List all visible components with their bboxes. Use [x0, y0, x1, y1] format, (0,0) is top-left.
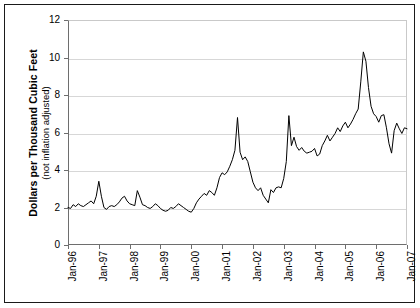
x-tick-label: Jan-03: [284, 251, 294, 282]
y-tick-label: 0: [34, 240, 60, 250]
y-tick-label: 8: [34, 90, 60, 100]
y-tick-label: 12: [34, 15, 60, 25]
x-tick-label: Jan-05: [345, 251, 355, 282]
x-tick-mark: [376, 245, 377, 249]
x-tick-label: Jan-96: [68, 251, 78, 282]
x-tick-mark: [160, 245, 161, 249]
x-tick-mark: [345, 245, 346, 249]
x-tick-mark: [253, 245, 254, 249]
x-tick-label: Jan-98: [130, 251, 140, 282]
x-tick-mark: [68, 245, 69, 249]
x-tick-label: Jan-04: [315, 251, 325, 282]
y-tick-label: 10: [34, 53, 60, 63]
x-tick-label: Jan-02: [253, 251, 263, 282]
y-tick-label: 6: [34, 128, 60, 138]
x-tick-mark: [315, 245, 316, 249]
x-tick-label: Jan-99: [160, 251, 170, 282]
x-tick-label: Jan-06: [376, 251, 386, 282]
chart-figure: Dollars per Thousand Cubic Feet (not inf…: [0, 0, 420, 308]
y-tick-label: 4: [34, 165, 60, 175]
x-tick-label: Jan-07: [407, 251, 417, 282]
price-series-line: [68, 52, 407, 212]
x-tick-label: Jan-01: [222, 251, 232, 282]
x-tick-mark: [284, 245, 285, 249]
plot-wrapper: 024681012 Jan-96Jan-97Jan-98Jan-99Jan-00…: [68, 20, 407, 245]
x-tick-mark: [130, 245, 131, 249]
x-tick-label: Jan-97: [99, 251, 109, 282]
x-tick-label: Jan-00: [191, 251, 201, 282]
x-tick-mark: [222, 245, 223, 249]
series-layer: [68, 20, 407, 245]
x-tick-mark: [191, 245, 192, 249]
x-tick-mark: [407, 245, 408, 249]
y-tick-label: 2: [34, 203, 60, 213]
x-tick-mark: [99, 245, 100, 249]
